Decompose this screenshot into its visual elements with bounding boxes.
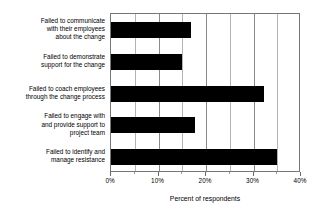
value-axis: 0%10%20%30%40% (110, 172, 300, 190)
tick-label: 20% (199, 177, 212, 185)
tick-label: 40% (294, 177, 307, 185)
tick-label: 10% (151, 177, 164, 185)
bar (111, 54, 182, 70)
category-label: Failed to identify and manage resistance (0, 148, 105, 164)
bar (111, 117, 195, 133)
tick-mark-minor (276, 172, 277, 174)
bar (111, 86, 264, 102)
category-label: Failed to communicate with their employe… (0, 17, 105, 42)
category-axis: Failed to communicate with their employe… (0, 13, 108, 172)
tick-mark (158, 172, 159, 176)
bar (111, 149, 277, 165)
tick-mark (110, 172, 111, 176)
tick-mark-minor (229, 172, 230, 174)
bars-layer (111, 14, 299, 171)
bar-chart: Failed to communicate with their employe… (0, 0, 319, 212)
bar (111, 22, 191, 38)
tick-mark (205, 172, 206, 176)
category-label: Failed to coach employees through the ch… (0, 84, 105, 100)
tick-label: 30% (246, 177, 259, 185)
tick-label: 0% (105, 177, 114, 185)
category-label: Failed to demonstrate support for the ch… (0, 52, 105, 68)
x-axis-title: Percent of respondents (110, 194, 300, 203)
tick-mark-minor (181, 172, 182, 174)
plot-area (110, 13, 300, 172)
tick-mark (253, 172, 254, 176)
tick-mark (300, 172, 301, 176)
category-label: Failed to engage with and provide suppor… (0, 112, 105, 137)
tick-mark-minor (134, 172, 135, 174)
